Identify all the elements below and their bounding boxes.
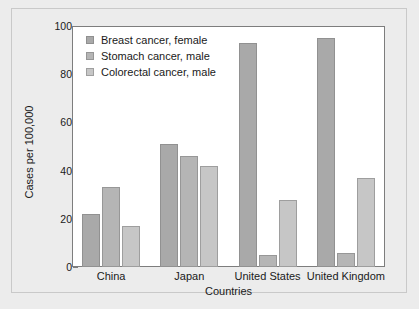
legend-item: Stomach cancer, male — [86, 49, 216, 63]
y-axis-tick-label: 60 — [46, 117, 72, 128]
x-axis-tick-label: United States — [228, 270, 306, 286]
chart-legend: Breast cancer, femaleStomach cancer, mal… — [86, 33, 216, 79]
x-axis-tick-label: China — [72, 270, 150, 286]
chart-figure: Cases per 100,000 020406080100 Breast ca… — [0, 0, 419, 309]
legend-swatch-icon — [86, 68, 94, 76]
bar — [337, 253, 355, 267]
y-axis-tick-labels: 020406080100 — [40, 26, 72, 267]
y-axis-title: Cases per 100,000 — [23, 52, 35, 252]
y-axis-tick-label: 80 — [46, 69, 72, 80]
legend-item: Colorectal cancer, male — [86, 65, 216, 79]
bar — [259, 255, 277, 267]
bar — [82, 214, 100, 267]
bar — [122, 226, 140, 267]
y-axis-tick-label: 40 — [46, 165, 72, 176]
bar-group — [307, 26, 385, 267]
bar — [279, 200, 297, 267]
bar — [102, 187, 120, 267]
bar — [239, 43, 257, 267]
legend-item: Breast cancer, female — [86, 33, 216, 47]
legend-label: Stomach cancer, male — [101, 50, 210, 62]
bar — [357, 178, 375, 267]
y-axis-tick-label: 0 — [46, 262, 72, 273]
bar — [317, 38, 335, 267]
y-axis-tick-label: 100 — [46, 21, 72, 32]
bar — [180, 156, 198, 267]
x-axis-title: Countries — [72, 285, 385, 297]
y-axis-tick-label: 20 — [46, 214, 72, 225]
legend-swatch-icon — [86, 36, 94, 44]
bar — [200, 166, 218, 267]
x-axis-tick-labels: ChinaJapanUnited StatesUnited Kingdom — [72, 270, 385, 286]
legend-swatch-icon — [86, 52, 94, 60]
x-axis-tick-label: Japan — [150, 270, 228, 286]
y-axis-tick-mark — [73, 267, 78, 268]
bar-group — [229, 26, 307, 267]
bar — [160, 144, 178, 267]
legend-label: Colorectal cancer, male — [101, 66, 216, 78]
x-axis-tick-label: United Kingdom — [307, 270, 385, 286]
legend-label: Breast cancer, female — [101, 34, 207, 46]
